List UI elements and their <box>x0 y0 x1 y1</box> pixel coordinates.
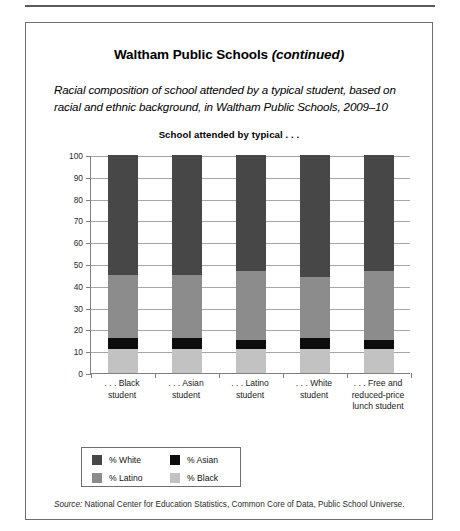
y-axis-tick-label: 90 <box>74 173 83 183</box>
stacked-bar <box>300 155 330 373</box>
bar-segment <box>108 275 138 338</box>
figure-card: Waltham Public Schools (continued) Racia… <box>25 22 433 520</box>
page-title-main: Waltham Public Schools <box>114 47 272 62</box>
bar-segment <box>236 349 266 373</box>
bar-segment <box>236 271 266 341</box>
bar-segment <box>108 338 138 349</box>
page-title-continued: (continued) <box>272 47 344 62</box>
source-body: National Center for Education Statistics… <box>82 500 404 509</box>
legend-label: % Asian <box>187 455 218 465</box>
y-axis-tick <box>86 156 91 157</box>
y-axis-tick-label: 40 <box>74 282 83 292</box>
legend-label: % Latino <box>109 473 142 483</box>
stacked-bar <box>236 155 266 373</box>
chart-plot-wrapper: 0102030405060708090100 <box>62 156 410 374</box>
figure-subtitle: Racial composition of school attended by… <box>54 81 410 115</box>
legend-item: % Black <box>170 473 218 483</box>
legend-label: % Black <box>187 473 218 483</box>
x-axis-category-label: . . . Free andreduced-pricelunch student <box>335 378 421 413</box>
y-axis-tick <box>86 178 91 179</box>
bar-segment <box>364 349 394 373</box>
y-axis-tick <box>86 309 91 310</box>
bar-segment <box>108 349 138 373</box>
legend-item: % White <box>92 455 141 465</box>
chart-legend: % White% Asian% Latino% Black <box>81 447 241 487</box>
stacked-bar <box>364 155 394 373</box>
legend-swatch <box>92 473 102 483</box>
bar-segment <box>108 155 138 275</box>
bar-segment <box>364 271 394 341</box>
legend-item: % Latino <box>92 473 142 483</box>
bar-segment <box>172 275 202 338</box>
y-axis-tick <box>86 287 91 288</box>
y-axis-tick-label: 80 <box>74 195 83 205</box>
y-axis-tick <box>86 352 91 353</box>
x-axis-category-labels: . . . Blackstudent. . . Asianstudent. . … <box>90 378 410 424</box>
legend-item: % Asian <box>170 455 218 465</box>
legend-label: % White <box>109 455 141 465</box>
bar-segment <box>300 155 330 277</box>
y-axis-tick-label: 70 <box>74 216 83 226</box>
source-note: Source: National Center for Education St… <box>54 500 404 509</box>
bar-segment <box>300 338 330 349</box>
bar-segment <box>300 277 330 338</box>
top-divider-rule <box>25 5 435 7</box>
bar-segment <box>172 349 202 373</box>
bar-segment <box>300 349 330 373</box>
y-axis-tick <box>86 330 91 331</box>
y-axis-tick-label: 30 <box>74 304 83 314</box>
stacked-bar <box>172 155 202 373</box>
bar-segment <box>364 340 394 349</box>
source-label: Source: <box>54 500 82 509</box>
y-axis-tick-label: 50 <box>74 260 83 270</box>
y-axis-tick-label: 10 <box>74 347 83 357</box>
legend-swatch <box>170 455 180 465</box>
bar-segment <box>172 155 202 275</box>
legend-swatch <box>170 473 180 483</box>
stacked-bar <box>108 155 138 373</box>
page-title: Waltham Public Schools (continued) <box>26 47 432 62</box>
y-axis-tick-label: 60 <box>74 238 83 248</box>
bar-segment <box>172 338 202 349</box>
legend-swatch <box>92 455 102 465</box>
y-axis-tick <box>86 221 91 222</box>
y-axis-tick-label: 100 <box>69 151 83 161</box>
y-axis-tick <box>86 243 91 244</box>
bar-segment <box>236 155 266 271</box>
chart-title: School attended by typical . . . <box>26 129 432 140</box>
y-axis-tick-label: 20 <box>74 325 83 335</box>
x-axis-category-label-line: lunch student <box>335 401 421 413</box>
x-axis-category-label-line: . . . Free and <box>335 378 421 390</box>
chart-plot-area: 0102030405060708090100 <box>90 156 410 374</box>
y-axis-tick <box>86 265 91 266</box>
y-axis-tick <box>86 200 91 201</box>
bar-segment <box>364 155 394 271</box>
x-axis-category-label-line: reduced-price <box>335 390 421 402</box>
bar-segment <box>236 340 266 349</box>
